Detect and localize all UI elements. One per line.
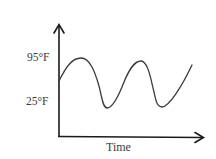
- temperature-curve: [59, 58, 192, 108]
- x-axis-label: Time: [106, 140, 131, 154]
- x-axis: [58, 137, 202, 138]
- temperature-chart: 95°F 25°F Time: [0, 0, 216, 159]
- y-tick-label-25: 25°F: [26, 95, 49, 107]
- y-tick-label-95: 95°F: [27, 51, 50, 63]
